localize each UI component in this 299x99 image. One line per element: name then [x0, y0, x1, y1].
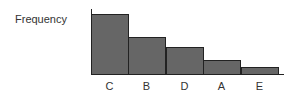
x-tick-label-D: D [166, 80, 203, 92]
bar-C [91, 14, 129, 75]
bar-A [203, 60, 241, 75]
bar-E [241, 67, 279, 75]
bar-B [128, 37, 166, 75]
x-tick-label-E: E [241, 80, 278, 92]
y-axis-label: Frequency [15, 13, 67, 25]
x-tick-label-A: A [203, 80, 240, 92]
bar-D [166, 47, 204, 75]
x-tick-label-B: B [128, 80, 165, 92]
x-tick-label-C: C [91, 80, 128, 92]
